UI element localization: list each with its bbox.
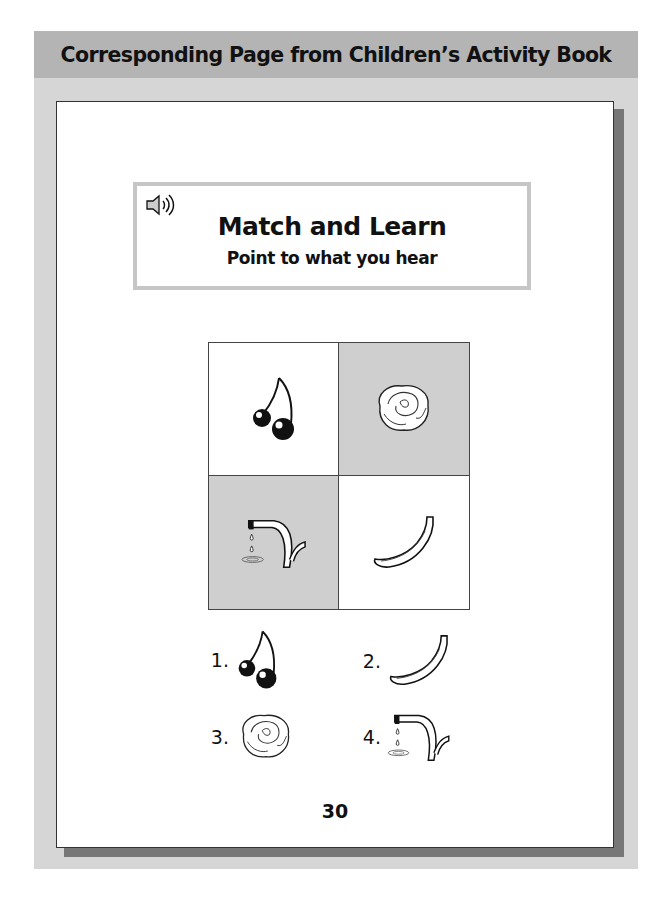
banana-icon [387,632,451,690]
answer-item-4: 4. [359,710,451,764]
answer-item-1: 1. [207,627,281,693]
answer-item-2: 2. [359,632,451,690]
grid-cell-lettuce[interactable] [339,343,469,476]
answer-number: 1. [207,649,229,671]
cherries-icon [249,374,299,444]
answer-list: 1. 2. 3. 4. [207,622,537,762]
figure-header: Corresponding Page from Children’s Activ… [34,31,638,78]
activity-title: Match and Learn [137,212,527,241]
answer-number: 4. [359,726,381,748]
page-number: 30 [57,800,613,822]
grid-cell-faucet[interactable] [209,476,339,609]
answer-item-3: 3. [207,710,297,764]
picture-grid [208,342,470,610]
faucet-icon [241,514,307,572]
faucet-icon [387,710,451,764]
activity-instruction: Point to what you hear [137,248,527,268]
title-box: Match and Learn Point to what you hear [133,182,531,290]
answer-number: 2. [359,650,381,672]
lettuce-icon [235,710,297,764]
figure-title: Corresponding Page from Children’s Activ… [61,43,612,67]
banana-icon [371,513,437,573]
grid-cell-cherries[interactable] [209,343,339,476]
grid-cell-banana[interactable] [339,476,469,609]
activity-book-page: Match and Learn Point to what you hear 1… [56,101,614,848]
lettuce-icon [372,380,436,438]
cherries-icon [235,627,281,693]
answer-number: 3. [207,726,229,748]
